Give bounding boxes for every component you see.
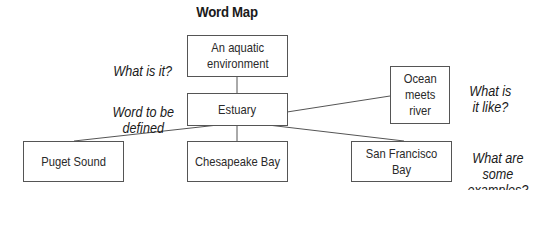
description-text: Ocean meets river [404,71,437,119]
example-text-1: Puget Sound [41,154,106,170]
connector-word-example-3 [268,125,404,141]
word-box: Estuary [187,93,288,126]
example-text-3: San Francisco Bay [366,146,437,178]
prompt-what-is-it-like: What is it like? [455,67,525,115]
definition-text: An aquatic environment [207,40,269,72]
prompt-word-to-be-defined: Word to be defined [100,88,186,136]
word-text: Estuary [219,102,257,118]
definition-box: An aquatic environment [187,35,288,77]
example-text-2: Chesapeake Bay [195,154,280,170]
example-box-1: Puget Sound [23,141,124,182]
connector-word-description [287,96,390,112]
prompt-what-are-examples: What are some examples? [458,134,538,190]
prompt-what-is-it: What is it? [100,47,186,79]
example-box-2: Chesapeake Bay [187,141,288,182]
example-box-3: San Francisco Bay [351,141,452,182]
description-box: Ocean meets river [390,66,450,124]
